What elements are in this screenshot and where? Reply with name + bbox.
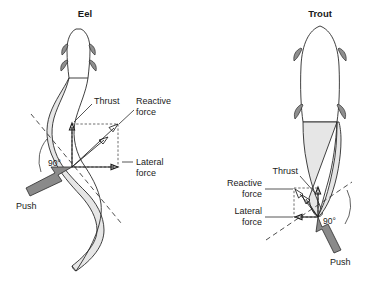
eel-reactive-force-label-line1: Reactive <box>136 96 171 106</box>
trout-right-angle-arc <box>345 190 351 224</box>
eel-lateral-force-label-line1: Lateral <box>136 157 164 167</box>
eel-reactive-leader <box>119 110 134 124</box>
eel-title: Eel <box>78 8 92 19</box>
trout-thrust-label: Thrust <box>272 166 298 176</box>
trout-angle-label: 90° <box>323 216 336 226</box>
trout-panel: Trout 90° <box>227 8 352 267</box>
eel-body-axis <box>31 114 121 223</box>
eel-thrust-label: Thrust <box>94 96 120 106</box>
eel-pelvic-fin-left <box>61 60 68 71</box>
eel-panel: Eel 90° <box>16 8 171 271</box>
eel-angle-label: 90° <box>48 158 61 168</box>
eel-lateral-force-label-line2: force <box>136 168 156 178</box>
eel-pelvic-fin-right <box>89 60 96 71</box>
eel-thrust-leader <box>74 104 92 122</box>
trout-head-body <box>301 26 340 122</box>
trout-push-label: Push <box>330 257 351 267</box>
trout-reactive-force-label-line1: Reactive <box>227 178 262 188</box>
trout-lateral-force-label-line2: force <box>242 217 262 227</box>
eel-push-label: Push <box>16 201 37 211</box>
eel-push-arrow <box>26 167 72 196</box>
eel-right-angle-arc <box>39 139 47 172</box>
eel-vectors <box>69 123 118 170</box>
trout-lateral-force-label-line1: Lateral <box>234 206 262 216</box>
trout-body <box>294 26 346 217</box>
eel-body <box>47 29 104 271</box>
trout-pectoral-fin-left <box>294 48 302 61</box>
trout-body-axis <box>266 182 352 240</box>
eel-head-segment <box>67 29 90 78</box>
trout-reactive-force-label-line2: force <box>242 189 262 199</box>
trout-title: Trout <box>308 8 333 19</box>
eel-resultant-vector <box>72 140 104 167</box>
swimming-force-diagram: Eel 90° <box>0 0 365 284</box>
trout-pectoral-fin-right <box>338 48 346 61</box>
eel-reactive-force-label-line2: force <box>136 107 156 117</box>
